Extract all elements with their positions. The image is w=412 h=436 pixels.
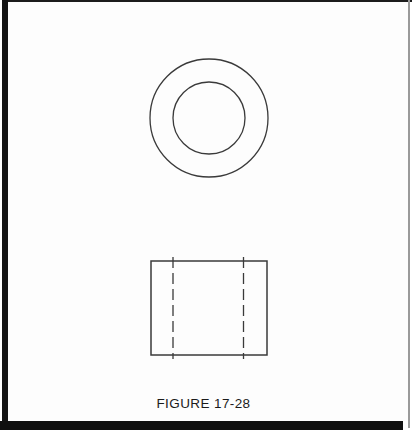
scanned-page: FIGURE 17-28 — [0, 0, 412, 436]
front-view-rectangle — [151, 261, 267, 355]
top-view-inner-circle — [173, 82, 245, 154]
top-view-outer-circle — [150, 59, 268, 177]
figure-caption: FIGURE 17-28 — [0, 396, 407, 411]
orthographic-drawing — [0, 0, 412, 436]
